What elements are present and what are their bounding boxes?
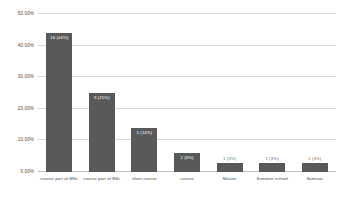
bar-data-label: 16 (44%) <box>50 35 68 40</box>
bar-data-label: 1 (3%) <box>223 156 236 161</box>
x-tick-label: short course <box>123 176 166 182</box>
bar-slot: 16 (44%) <box>38 14 81 172</box>
bar[interactable]: 2 (6%) <box>174 153 200 172</box>
bar-slot: 5 (14%) <box>123 14 166 172</box>
bar[interactable]: 9 (25%) <box>89 93 115 172</box>
bar[interactable]: 16 (44%) <box>46 33 72 172</box>
plot-area: 50.00% 40.00% 30.00% 20.00% 10.00% 0.00%… <box>38 14 336 172</box>
x-tick-label: Master <box>208 176 251 182</box>
y-tick-label-0: 0.00% <box>20 169 34 174</box>
bar-data-label: 2 (6%) <box>180 155 193 160</box>
bar[interactable]: 1 (3%) <box>217 163 243 172</box>
x-tick-label: Summer school <box>251 176 294 182</box>
y-tick-label-50: 50.00% <box>18 11 34 16</box>
bar-slot: 1 (3%) <box>208 14 251 172</box>
bar[interactable]: 5 (14%) <box>131 128 157 172</box>
bar-slot: 9 (25%) <box>81 14 124 172</box>
bar[interactable]: 1 (3%) <box>302 163 328 172</box>
y-tick-label-30: 30.00% <box>18 74 34 79</box>
bar-slot: 1 (3%) <box>293 14 336 172</box>
bar-slot: 2 (6%) <box>166 14 209 172</box>
bar-data-label: 1 (3%) <box>266 156 279 161</box>
y-tick-label-40: 40.00% <box>18 42 34 47</box>
x-axis-labels: course part of MSc course part of BSc sh… <box>38 176 336 182</box>
x-tick-label: course part of BSc <box>81 176 124 182</box>
x-tick-label: course part of MSc <box>38 176 81 182</box>
bar-data-label: 1 (3%) <box>308 156 321 161</box>
bar-data-label: 5 (14%) <box>137 130 153 135</box>
bar-series: 16 (44%) 9 (25%) 5 (14%) 2 (6%) <box>38 14 336 172</box>
bar-chart: 50.00% 40.00% 30.00% 20.00% 10.00% 0.00%… <box>0 0 345 212</box>
y-tick-label-20: 20.00% <box>18 105 34 110</box>
bar-slot: 1 (3%) <box>251 14 294 172</box>
bar[interactable]: 1 (3%) <box>259 163 285 172</box>
x-tick-label: course <box>166 176 209 182</box>
x-tick-label: Seminar <box>293 176 336 182</box>
y-tick-label-10: 10.00% <box>18 137 34 142</box>
bar-data-label: 9 (25%) <box>94 95 110 100</box>
